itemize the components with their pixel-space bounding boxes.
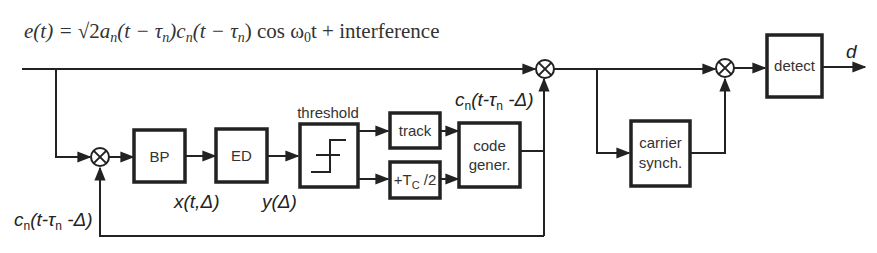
carrier-label-1: carrier [639,134,682,151]
detect-label: detect [774,57,816,74]
carrier-label-2: synch. [639,154,682,171]
multiplier-2 [536,60,554,78]
branch-to-carrier [597,69,629,153]
signal-equation: e(t) = √2an(t − τn)cn(t − τn) cos ω0t + … [24,19,439,45]
code-gen-label-2: gener. [469,156,511,173]
track-label: track [399,122,432,139]
multiplier-3 [716,59,734,77]
bp-label: BP [149,148,169,165]
wire-carrier-mult3 [691,79,725,153]
threshold-title: threshold [297,104,359,121]
output-label: d [846,41,858,62]
x-signal-label: x(t,Δ) [173,191,219,212]
code-gen-label-1: code [473,137,506,154]
code-generator-block [459,123,520,187]
branch-to-despreader [56,69,90,157]
local-code-label-left: cn(t-τn -Δ) [14,209,93,233]
local-code-label-top: cn(t-τn -Δ) [455,89,534,113]
y-signal-label: y(Δ) [260,191,297,212]
dll-receiver-block-diagram: e(t) = √2an(t − τn)cn(t − τn) cos ω0t + … [0,0,877,253]
ed-label: ED [231,147,252,164]
multiplier-1 [91,148,109,166]
